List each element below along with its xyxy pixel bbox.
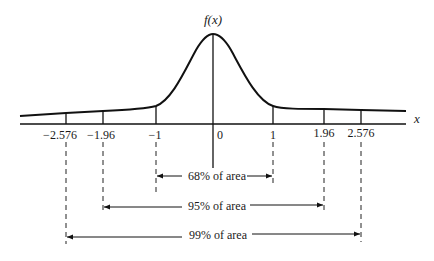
interval-label-68: 68% of area (188, 169, 247, 183)
tick-label: −2.576 (43, 128, 77, 142)
tick-label: 2.576 (348, 126, 375, 140)
tick-label: −1.96 (87, 128, 115, 142)
tick-label: 1.96 (314, 126, 335, 140)
y-axis-label: f(x) (204, 12, 222, 27)
tick-label: 0 (217, 128, 223, 142)
tick-label: 1 (270, 128, 276, 142)
x-axis-label: x (413, 111, 420, 126)
interval-label-99: 99% of area (189, 228, 248, 242)
tick-label: −1 (149, 128, 162, 142)
normal-curve-diagram: f(x) x −2.576 −1.96 −1 0 1 1.96 2.576 68… (0, 0, 434, 261)
interval-label-95: 95% of area (188, 199, 247, 213)
